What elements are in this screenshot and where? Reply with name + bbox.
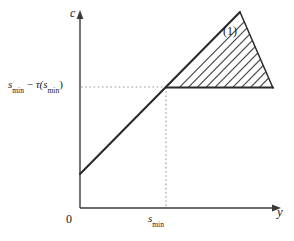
y-tick-subscript-1: min bbox=[12, 86, 24, 95]
hypotenuse-boundary-line bbox=[240, 12, 273, 88]
x-tick-subscript: min bbox=[152, 220, 164, 229]
x-tick-label-smin: smin bbox=[148, 213, 164, 224]
y-axis-label: c bbox=[70, 7, 75, 19]
main-diagonal-line bbox=[80, 12, 240, 174]
y-tick-label-threshold: smin − τ(smin) bbox=[8, 79, 63, 90]
y-tick-base-2: s bbox=[43, 78, 47, 90]
diagram-svg bbox=[0, 0, 294, 241]
x-axis-label: y bbox=[277, 205, 283, 218]
y-axis-arrowhead bbox=[77, 10, 84, 19]
origin-label: 0 bbox=[66, 213, 72, 225]
y-tick-close-paren: ) bbox=[59, 78, 63, 90]
y-tick-minus-operator: − bbox=[24, 78, 36, 90]
region-annotation-label: (1) bbox=[223, 25, 237, 37]
y-tick-subscript-2: min bbox=[48, 86, 60, 95]
figure-canvas: c y 0 smin smin − τ(smin) (1) bbox=[0, 0, 294, 241]
